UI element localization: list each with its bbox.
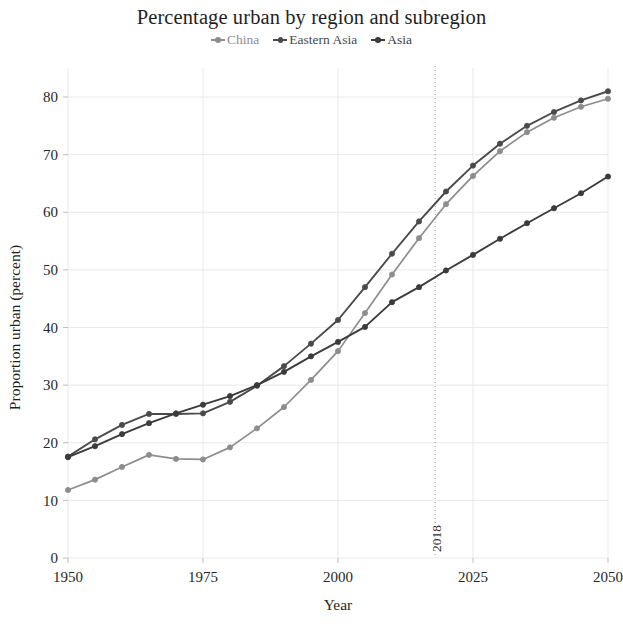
data-point [362,324,367,329]
data-point [200,457,205,462]
data-point [443,189,448,194]
data-point [605,89,610,94]
data-point [281,404,286,409]
data-point [119,422,124,427]
data-point [65,455,70,460]
data-point [497,141,502,146]
data-point [497,236,502,241]
x-tick-label: 2025 [458,569,488,585]
data-point [92,444,97,449]
data-point [389,251,394,256]
y-tick-label: 10 [43,493,58,509]
data-point [335,317,340,322]
data-point [119,464,124,469]
annotation-label-2018: 2018 [429,525,444,552]
data-point [470,252,475,257]
data-point [578,191,583,196]
plot-area: 01020304050607080 19501975200020252050 2… [0,0,623,636]
x-tick-label: 2000 [323,569,353,585]
data-point [227,445,232,450]
y-tick-label: 60 [43,204,58,220]
grid-lines [68,68,608,558]
x-axis-title: Year [324,596,353,613]
chart-annotations: 2018 [429,66,444,558]
data-point [524,123,529,128]
data-point [551,206,556,211]
x-tick-label: 1975 [188,569,218,585]
y-tick-label: 80 [43,89,58,105]
data-point [200,411,205,416]
y-tick-label: 30 [43,377,58,393]
data-point [470,173,475,178]
data-point [146,452,151,457]
data-point [308,377,313,382]
data-point [578,98,583,103]
data-point [497,149,502,154]
x-tick-label: 1950 [53,569,83,585]
y-tick-label: 20 [43,435,58,451]
data-point [470,163,475,168]
data-point [173,411,178,416]
y-tick-label: 50 [43,262,58,278]
data-point [335,349,340,354]
data-point [119,432,124,437]
data-point [416,219,421,224]
data-point [227,393,232,398]
data-point [254,383,259,388]
data-point [416,285,421,290]
data-point [200,402,205,407]
data-point [146,421,151,426]
data-point [254,426,259,431]
data-point [551,115,556,120]
data-point [443,268,448,273]
x-tick-label: 2050 [593,569,623,585]
x-axis-ticks: 19501975200020252050 [53,558,623,585]
data-point [389,272,394,277]
data-point [389,300,394,305]
y-tick-label: 40 [43,320,58,336]
data-point [146,411,151,416]
data-point [443,202,448,207]
data-point [335,339,340,344]
chart-container: Percentage urban by region and subregion… [0,0,623,636]
data-point [92,437,97,442]
data-point [416,236,421,241]
data-point [524,130,529,135]
data-point [605,96,610,101]
data-point [308,341,313,346]
data-point [173,456,178,461]
data-point [281,369,286,374]
data-point [605,174,610,179]
y-tick-label: 0 [51,550,59,566]
data-point [362,310,367,315]
data-point [578,104,583,109]
data-point [362,285,367,290]
data-point [92,477,97,482]
y-tick-label: 70 [43,147,58,163]
y-axis-ticks: 01020304050607080 [43,89,68,566]
y-axis-title: Proportion urban (percent) [6,245,24,410]
data-point [524,221,529,226]
data-point [308,354,313,359]
data-point [551,109,556,114]
data-point [65,487,70,492]
data-point [281,364,286,369]
data-point [227,399,232,404]
